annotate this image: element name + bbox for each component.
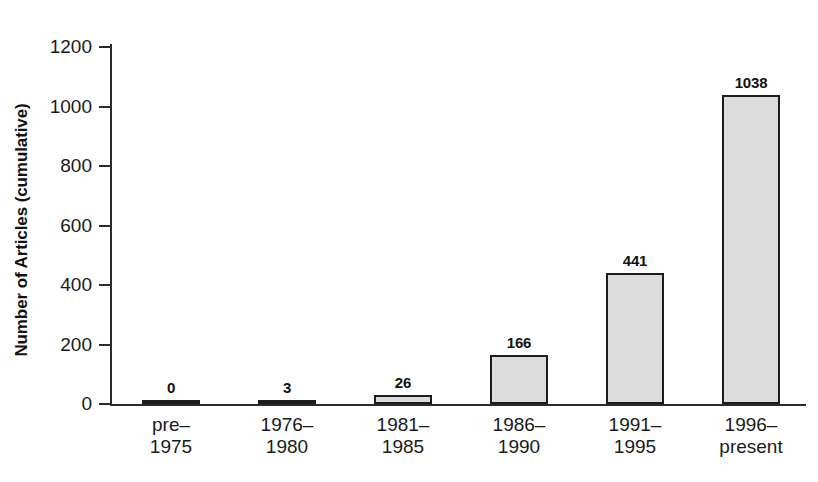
y-tick-label-text: 1000 (20, 97, 92, 116)
x-tick-label-line1: 1991– (609, 414, 662, 435)
bar-value-label: 1038 (702, 75, 800, 90)
x-tick-label-line1: 1996– (725, 414, 778, 435)
bar-value-label: 26 (354, 375, 452, 390)
x-tick-label-line2: 1975 (116, 436, 226, 458)
x-tick-label-line1: 1976– (261, 414, 314, 435)
x-tick-label-line2: 1985 (348, 436, 458, 458)
y-tick-label: 1200 (20, 37, 92, 57)
y-tick-label: 1000 (20, 97, 92, 117)
x-tick-label-line2: 1980 (232, 436, 342, 458)
x-axis-line (110, 404, 806, 406)
x-tick-label: 1996–present (696, 414, 806, 459)
y-tick-label-text: 400 (20, 275, 92, 294)
y-tick-label-text: 200 (20, 335, 92, 354)
y-tick-mark (99, 106, 111, 108)
y-tick-label: 800 (20, 156, 92, 176)
bar-value-label: 3 (238, 380, 336, 395)
x-tick-label-line2: 1995 (580, 436, 690, 458)
bar (490, 355, 548, 404)
x-tick-label-line2: present (696, 436, 806, 458)
bar (722, 95, 780, 404)
x-tick-label: 1986–1990 (464, 414, 574, 459)
bar-value-label: 166 (470, 335, 568, 350)
bar (142, 400, 200, 404)
y-tick-mark (99, 284, 111, 286)
x-tick-label: 1981–1985 (348, 414, 458, 459)
y-tick-label: 400 (20, 275, 92, 295)
x-tick-label: 1976–1980 (232, 414, 342, 459)
y-tick-mark (99, 344, 111, 346)
x-tick-label: 1991–1995 (580, 414, 690, 459)
x-tick-label-line2: 1990 (464, 436, 574, 458)
y-tick-mark (99, 225, 111, 227)
y-tick-mark (99, 403, 111, 405)
bar-chart-figure: Number of Articles (cumulative) 02004006… (0, 0, 818, 482)
bar (606, 273, 664, 404)
y-tick-mark (99, 165, 111, 167)
x-tick-label-line1: 1986– (493, 414, 546, 435)
x-tick-label-line1: 1981– (377, 414, 430, 435)
x-tick-label-line1: pre– (152, 414, 190, 435)
y-tick-label-text: 1200 (20, 37, 92, 56)
y-tick-label: 200 (20, 335, 92, 355)
bar (258, 400, 316, 404)
y-tick-mark (99, 46, 111, 48)
bar (374, 395, 432, 404)
y-tick-label-text: 600 (20, 216, 92, 235)
y-tick-label-text: 0 (20, 394, 92, 413)
y-tick-label: 0 (20, 394, 92, 414)
x-tick-label: pre–1975 (116, 414, 226, 459)
bar-value-label: 0 (122, 380, 220, 395)
bar-value-label: 441 (586, 253, 684, 268)
y-tick-label-text: 800 (20, 156, 92, 175)
y-tick-label: 600 (20, 216, 92, 236)
